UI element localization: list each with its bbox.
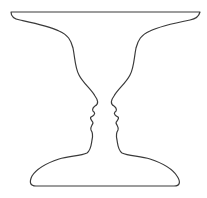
vase-outline-path: [11, 12, 200, 186]
vase-faces-outline: [0, 0, 207, 198]
rubin-vase-illustration: [0, 0, 207, 198]
